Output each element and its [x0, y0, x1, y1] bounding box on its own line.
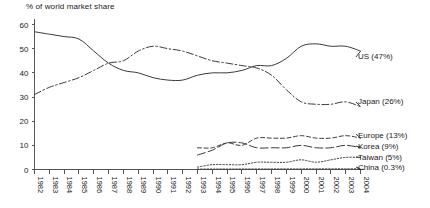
svg-text:60: 60: [20, 21, 29, 30]
svg-text:2003: 2003: [347, 177, 356, 194]
svg-text:1991: 1991: [169, 177, 178, 194]
svg-text:1997: 1997: [258, 177, 267, 194]
svg-text:1982: 1982: [36, 177, 45, 194]
legend-leader-lines: [356, 51, 361, 169]
svg-text:2001: 2001: [317, 177, 326, 194]
series-line-us: [35, 32, 361, 81]
legend-label-europe: Europe (13%): [358, 131, 407, 140]
svg-text:1988: 1988: [125, 177, 134, 194]
svg-text:1996: 1996: [243, 177, 252, 194]
svg-text:2000: 2000: [302, 177, 311, 194]
svg-text:2002: 2002: [332, 177, 341, 194]
svg-text:1992: 1992: [184, 177, 193, 194]
chart-axes: [32, 19, 364, 174]
svg-text:20: 20: [20, 117, 29, 126]
svg-text:1998: 1998: [273, 177, 282, 194]
series-line-taiwan: [198, 157, 361, 167]
legend-label-korea: Korea (9%): [358, 142, 398, 151]
svg-text:1984: 1984: [65, 177, 74, 194]
series-line-korea: [198, 142, 361, 155]
svg-text:1994: 1994: [214, 177, 223, 194]
svg-text:40: 40: [20, 69, 29, 78]
svg-text:2004: 2004: [362, 177, 371, 194]
series-line-japan: [35, 46, 361, 106]
svg-text:1993: 1993: [199, 177, 208, 194]
svg-text:1999: 1999: [288, 177, 297, 194]
market-share-chart: % of world market share 0102030405060 19…: [0, 0, 430, 208]
chart-series-group: [35, 32, 361, 169]
svg-text:10: 10: [20, 141, 29, 150]
svg-text:1983: 1983: [51, 177, 60, 194]
svg-text:1989: 1989: [139, 177, 148, 194]
svg-text:1995: 1995: [228, 177, 237, 194]
svg-text:50: 50: [20, 45, 29, 54]
svg-text:1986: 1986: [95, 177, 104, 194]
x-tick-labels: 1982198319841985198619871988198919901991…: [36, 177, 371, 194]
legend-label-china: China (0.3%): [358, 163, 405, 172]
legend-label-japan: Japan (26%): [358, 97, 403, 106]
series-line-europe: [198, 136, 361, 148]
legend-label-us: US (47%): [358, 52, 393, 61]
y-tick-labels: 0102030405060: [20, 21, 29, 175]
svg-text:1987: 1987: [110, 177, 119, 194]
svg-text:30: 30: [20, 93, 29, 102]
svg-text:0: 0: [24, 166, 29, 175]
svg-text:1990: 1990: [154, 177, 163, 194]
svg-text:1985: 1985: [80, 177, 89, 194]
legend-label-taiwan: Taiwan (5%): [358, 153, 402, 162]
